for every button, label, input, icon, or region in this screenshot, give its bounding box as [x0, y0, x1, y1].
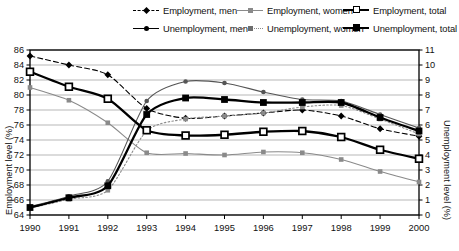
y-axis-left-tick: 86	[2, 46, 24, 55]
y-axis-left-tick: 68	[2, 181, 24, 190]
x-axis-tick: 1991	[49, 223, 89, 232]
legend-label-employment-women: Employment, women	[267, 5, 353, 16]
legend-item-unemployment-total[interactable]: Unemployment, total	[343, 21, 457, 35]
chart-figure: Employment, men Employment, women Employ…	[0, 0, 459, 251]
y-axis-left-tick: 84	[2, 61, 24, 70]
legend-item-employment-women[interactable]: Employment, women	[237, 3, 353, 17]
y-axis-left-tick: 64	[2, 211, 24, 220]
y-axis-right-tick: 8	[425, 91, 445, 100]
chart-svg	[0, 40, 459, 251]
x-axis-tick: 2000	[399, 223, 439, 232]
legend-label-unemployment-total: Unemployment, total	[373, 23, 457, 34]
y-axis-right-tick: 6	[425, 121, 445, 130]
y-axis-left-tick: 82	[2, 76, 24, 85]
y-axis-right-tick: 10	[425, 61, 445, 70]
y-axis-left-tick: 76	[2, 121, 24, 130]
chart-legend: Employment, men Employment, women Employ…	[0, 0, 459, 40]
y-axis-right-tick: 4	[425, 151, 445, 160]
legend-item-employment-total[interactable]: Employment, total	[343, 3, 446, 17]
legend-marker-unemployment-women-icon	[237, 22, 263, 34]
y-axis-left-tick: 66	[2, 196, 24, 205]
y-axis-right-tick: 1	[425, 196, 445, 205]
x-axis-tick: 1995	[205, 223, 245, 232]
legend-item-employment-men[interactable]: Employment, men	[133, 3, 237, 17]
legend-label-employment-men: Employment, men	[163, 5, 237, 16]
y-axis-right-tick: 11	[425, 46, 445, 55]
x-axis-tick: 1996	[243, 223, 283, 232]
legend-label-unemployment-men: Unemployment, men	[163, 23, 248, 34]
y-axis-left-tick: 74	[2, 136, 24, 145]
y-axis-left-tick: 70	[2, 166, 24, 175]
y-axis-right-tick: 5	[425, 136, 445, 145]
legend-label-employment-total: Employment, total	[373, 5, 446, 16]
y-axis-right-tick: 7	[425, 106, 445, 115]
y-axis-left-tick: 72	[2, 151, 24, 160]
y-axis-right-tick: 3	[425, 166, 445, 175]
y-axis-right-tick: 9	[425, 76, 445, 85]
legend-item-unemployment-men[interactable]: Unemployment, men	[133, 21, 248, 35]
x-axis-tick: 1998	[321, 223, 361, 232]
x-axis-tick: 1999	[360, 223, 400, 232]
legend-marker-employment-women-icon	[237, 4, 263, 16]
legend-marker-unemployment-total-icon	[343, 22, 369, 34]
x-axis-tick: 1993	[127, 223, 167, 232]
legend-marker-employment-men-icon	[133, 4, 159, 16]
x-axis-tick: 1994	[166, 223, 206, 232]
y-axis-left-tick: 80	[2, 91, 24, 100]
x-axis-tick: 1992	[88, 223, 128, 232]
y-axis-right-tick: 2	[425, 181, 445, 190]
chart-plot-area: Employment level (%) Unemployment level …	[0, 40, 459, 251]
x-axis-tick: 1990	[10, 223, 50, 232]
y-axis-right-tick: 0	[425, 211, 445, 220]
y-axis-left-tick: 78	[2, 106, 24, 115]
legend-marker-unemployment-men-icon	[133, 22, 159, 34]
x-axis-tick: 1997	[282, 223, 322, 232]
legend-marker-employment-total-icon	[343, 4, 369, 16]
